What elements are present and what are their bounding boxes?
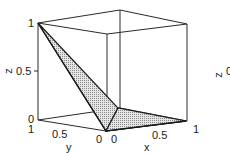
side-z-axis-label: z	[212, 72, 224, 78]
x-tick-0.5: 0.5	[152, 129, 167, 141]
y-tick-0: 0	[96, 133, 102, 145]
y-tick-0.5: 0.5	[52, 128, 67, 140]
y-axis-label: y	[66, 141, 72, 153]
z-axis-label: z	[2, 68, 14, 74]
side-z-tick-0: 0	[226, 65, 230, 77]
surface	[38, 23, 186, 131]
z-tick-1: 1	[28, 17, 34, 29]
z-tick-0.5: 0.5	[16, 65, 31, 77]
x-tick-0: 0	[111, 133, 117, 145]
x-axis-label: x	[144, 141, 150, 153]
y-tick-1: 1	[28, 123, 34, 135]
x-tick-1: 1	[193, 123, 199, 135]
3d-plot: 1 0.5 z 0 1 0.5 y 0 0 0.5 x 1 z 0	[0, 0, 230, 153]
